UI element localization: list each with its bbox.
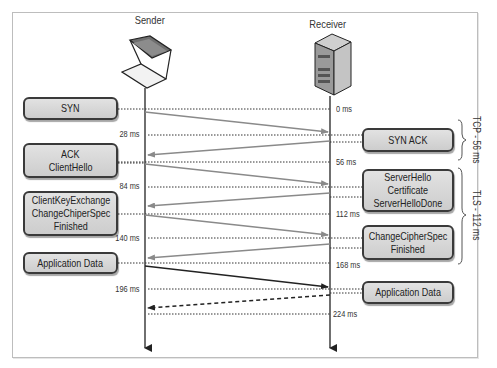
time-label: 196 ms bbox=[116, 284, 140, 294]
handshake-arrows bbox=[145, 112, 330, 258]
message-line: ClientHello bbox=[49, 161, 93, 174]
tcp-phase-bracket bbox=[458, 120, 466, 160]
time-label: 56 ms bbox=[336, 157, 356, 167]
sender-label: Sender bbox=[135, 14, 165, 26]
message-line: Finished bbox=[53, 220, 87, 233]
message-line: Finished bbox=[391, 243, 425, 256]
laptop-icon bbox=[122, 36, 171, 88]
message-line: Certificate bbox=[388, 184, 429, 197]
receiver-message-changecipherspec: ChangeCipherSpec Finished bbox=[362, 225, 454, 260]
message-line: ChangeCipherSpec bbox=[369, 230, 448, 243]
tls-phase-label: TLS - 112 ms bbox=[471, 190, 482, 240]
message-line: ACK bbox=[61, 148, 80, 161]
time-label: 168 ms bbox=[336, 260, 360, 270]
message-line: SYN ACK bbox=[388, 134, 427, 147]
app-data-request-arrow bbox=[145, 266, 328, 287]
time-label: 28 ms bbox=[120, 129, 140, 139]
sender-message-ack-clienthello: ACK ClientHello bbox=[23, 143, 118, 178]
message-line: ClientKeyExchange bbox=[31, 194, 110, 207]
server-icon bbox=[315, 34, 351, 95]
sender-message-clientkeyexchange: ClientKeyExchange ChangeChiperSpec Finis… bbox=[23, 191, 118, 236]
tls-phase-bracket bbox=[458, 168, 466, 264]
time-gridlines bbox=[118, 109, 362, 314]
time-label: 140 ms bbox=[116, 233, 140, 243]
receiver-message-application-data: Application Data bbox=[362, 281, 454, 304]
receiver-message-serverhello: ServerHello Certificate ServerHelloDone bbox=[362, 169, 454, 212]
message-line: SYN bbox=[61, 102, 80, 115]
tcp-phase-label: TCP - 56 ms bbox=[471, 116, 482, 164]
sender-message-application-data: Application Data bbox=[23, 252, 118, 274]
message-line: Application Data bbox=[375, 286, 441, 299]
message-line: ServerHelloDone bbox=[374, 197, 443, 210]
receiver-message-synack: SYN ACK bbox=[362, 128, 454, 152]
message-line: Application Data bbox=[38, 257, 104, 270]
time-label: 0 ms bbox=[336, 104, 352, 114]
time-label: 224 ms bbox=[333, 309, 357, 319]
sender-message-syn: SYN bbox=[23, 97, 118, 120]
time-label: 112 ms bbox=[336, 209, 360, 219]
time-label: 84 ms bbox=[120, 181, 140, 191]
receiver-label: Receiver bbox=[309, 18, 346, 30]
message-line: ChangeChiperSpec bbox=[31, 207, 110, 220]
app-data-response-arrow bbox=[148, 295, 330, 308]
message-line: ServerHello bbox=[384, 171, 431, 184]
